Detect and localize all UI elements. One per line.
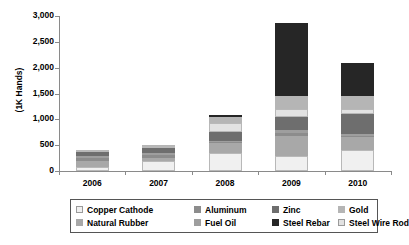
bar-segment <box>275 23 308 96</box>
bar-segment <box>275 109 308 117</box>
bar-segment <box>209 123 242 132</box>
y-axis-tick-mark <box>55 16 59 17</box>
legend-item-steel-wire-rod[interactable]: Steel Wire Rod <box>338 218 409 228</box>
bar-segment <box>209 153 242 171</box>
legend-swatch-icon <box>76 206 83 213</box>
y-axis-tick-mark <box>55 145 59 146</box>
bar-stack <box>275 23 308 171</box>
y-axis-title: (1K Hands) <box>10 0 28 180</box>
bar-segment <box>341 63 374 97</box>
legend-label: Steel Wire Rod <box>349 218 409 228</box>
bar-segment <box>275 136 308 156</box>
x-axis-label-2010: 2010 <box>328 178 388 188</box>
y-axis-title-text: (1K Hands) <box>14 68 24 113</box>
x-axis-tick-mark <box>59 171 60 175</box>
x-axis-tick-mark <box>391 171 392 175</box>
legend-swatch-icon <box>194 206 201 213</box>
x-axis-label-2008: 2008 <box>195 178 255 188</box>
y-axis-tick-label: 2,000 <box>33 62 54 72</box>
y-axis-tick-label: 1,000 <box>33 113 54 123</box>
bar-segment <box>209 143 242 153</box>
legend-item-copper-cathode[interactable]: Copper Cathode <box>76 205 153 215</box>
y-axis-tick-mark <box>55 42 59 43</box>
legend-item-aluminum[interactable]: Aluminum <box>194 205 247 215</box>
bar-segment <box>76 167 109 171</box>
bar-segment <box>341 96 374 108</box>
bar-segment <box>142 161 175 171</box>
y-axis-tick-label: 3,000 <box>33 10 54 20</box>
x-axis-tick-mark <box>125 171 126 175</box>
legend-swatch-icon <box>76 219 83 226</box>
legend-swatch-icon <box>272 219 279 226</box>
legend-label: Fuel Oil <box>205 218 236 228</box>
bar-stack <box>209 115 242 171</box>
bar-stack <box>341 63 374 171</box>
y-axis-tick-label: 1,500 <box>33 88 54 98</box>
x-axis-tick-mark <box>325 171 326 175</box>
legend-label: Gold <box>349 205 368 215</box>
y-axis-tick-mark <box>55 68 59 69</box>
bar-segment <box>209 132 242 141</box>
legend-swatch-icon <box>194 219 201 226</box>
y-axis-tick-mark <box>55 94 59 95</box>
y-axis-tick-label: 2,500 <box>33 36 54 46</box>
x-axis-tick-mark <box>258 171 259 175</box>
legend-swatch-icon <box>338 206 345 213</box>
legend-row: Natural RubberFuel OilSteel RebarSteel W… <box>76 216 372 229</box>
bar-segment <box>275 156 308 172</box>
x-axis-tick-mark <box>192 171 193 175</box>
legend-label: Natural Rubber <box>87 218 148 228</box>
legend-item-zinc[interactable]: Zinc <box>272 205 300 215</box>
legend-item-fuel-oil[interactable]: Fuel Oil <box>194 218 236 228</box>
legend-label: Copper Cathode <box>87 205 153 215</box>
legend-label: Steel Rebar <box>283 218 330 228</box>
y-axis-tick-mark <box>55 119 59 120</box>
bar-segment <box>341 137 374 150</box>
chart-legend: Copper CathodeAluminumZincGoldNatural Ru… <box>70 199 378 233</box>
y-axis-tick-label: 0 <box>49 165 54 175</box>
x-axis-label-2007: 2007 <box>129 178 189 188</box>
legend-item-gold[interactable]: Gold <box>338 205 368 215</box>
x-axis-line <box>59 171 391 172</box>
bar-stack <box>142 145 175 171</box>
x-axis-label-2006: 2006 <box>62 178 122 188</box>
bar-segment <box>341 150 374 171</box>
bar-segment <box>275 96 308 109</box>
bar-stack <box>76 150 109 171</box>
legend-label: Zinc <box>283 205 300 215</box>
legend-label: Aluminum <box>205 205 247 215</box>
x-axis-label-2009: 2009 <box>261 178 321 188</box>
legend-swatch-icon <box>338 219 345 226</box>
y-axis-line <box>59 16 60 171</box>
legend-row: Copper CathodeAluminumZincGold <box>76 203 372 216</box>
legend-item-steel-rebar[interactable]: Steel Rebar <box>272 218 330 228</box>
bar-segment <box>341 114 374 135</box>
legend-swatch-icon <box>272 206 279 213</box>
y-axis-tick-label: 500 <box>40 139 54 149</box>
bar-segment <box>275 117 308 130</box>
legend-item-natural-rubber[interactable]: Natural Rubber <box>76 218 148 228</box>
plot-area: 05001,0001,5002,0002,5003,000 <box>59 16 391 171</box>
